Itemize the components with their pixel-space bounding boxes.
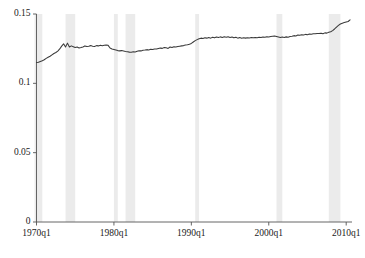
recession-band bbox=[195, 14, 199, 222]
x-axis-tick-label: 1990q1 bbox=[161, 229, 221, 239]
recession-band bbox=[329, 14, 341, 222]
axis-group bbox=[33, 14, 352, 226]
data-series-line bbox=[37, 20, 351, 63]
recession-band bbox=[126, 14, 136, 222]
y-axis-tick-label: 0 bbox=[26, 217, 31, 227]
x-axis-tick-label: 1970q1 bbox=[7, 229, 67, 239]
y-axis-tick-label: 0.15 bbox=[14, 9, 31, 19]
y-axis-tick-label: 0.1 bbox=[19, 78, 31, 88]
x-axis-tick-label: 2010q1 bbox=[316, 229, 365, 239]
recession-band bbox=[114, 14, 118, 222]
x-axis-tick-label: 2000q1 bbox=[239, 229, 299, 239]
y-axis-tick-label: 0.05 bbox=[14, 148, 31, 158]
x-axis-tick-label: 1980q1 bbox=[84, 229, 144, 239]
recession-band bbox=[35, 14, 43, 222]
recession-band bbox=[277, 14, 283, 222]
data-series-group bbox=[37, 20, 351, 63]
